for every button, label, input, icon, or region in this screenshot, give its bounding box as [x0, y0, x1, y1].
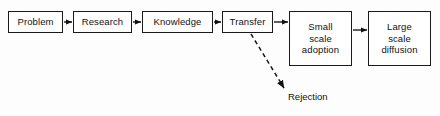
label-rejection: Rejection [288, 91, 328, 103]
node-knowledge[interactable]: Knowledge [142, 11, 213, 33]
node-label: Large scale diffusion [378, 21, 420, 56]
node-research[interactable]: Research [73, 11, 132, 33]
node-label: Knowledge [151, 16, 205, 28]
node-large[interactable]: Large scale diffusion [368, 11, 431, 66]
node-label: Problem [14, 16, 56, 28]
node-problem[interactable]: Problem [8, 11, 63, 33]
node-small[interactable]: Small scale adoption [289, 11, 352, 66]
node-transfer[interactable]: Transfer [222, 11, 273, 33]
connector-transfer-rejection [251, 34, 284, 88]
flowchart-canvas: ProblemResearchKnowledgeTransferSmall sc… [0, 0, 440, 116]
node-label: Small scale adoption [299, 21, 342, 56]
node-label: Transfer [227, 16, 269, 28]
node-label: Research [79, 16, 126, 28]
